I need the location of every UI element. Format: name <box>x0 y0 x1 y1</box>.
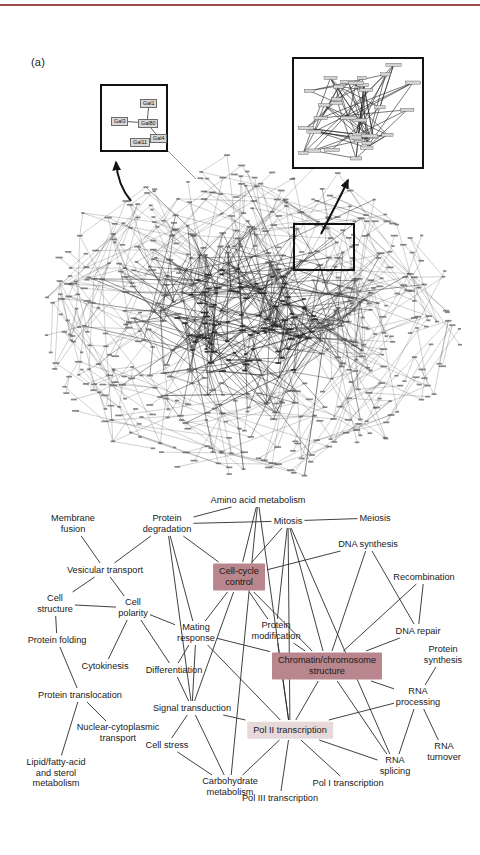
edge-mitosis--cell_cycle_control <box>252 528 282 562</box>
category-node-vesicular_transport: Vesicular transport <box>67 565 143 576</box>
category-node-cell_structure: Cell structure <box>37 593 73 614</box>
edge-membrane_fusion--vesicular_transport <box>81 536 100 563</box>
edge-vesicular_transport--cell_structure <box>73 577 95 592</box>
edge-differentiation--signal_transduction <box>177 677 188 701</box>
category-node-protein_translocation: Protein translocation <box>38 690 122 701</box>
edge-rna_processing--rna_turnover <box>424 709 439 740</box>
category-node-pol3_transcription: Pol III transcription <box>242 793 318 804</box>
edge-cell_stress--carbohydrate <box>178 752 213 775</box>
edge-protein_translocation--lipid_sterol <box>61 702 77 756</box>
category-node-recombination: Recombination <box>393 572 454 583</box>
edge-protein_degradation--signal_transduction <box>169 536 191 701</box>
edge-recombination--chromatin_structure <box>343 584 416 651</box>
panel-a: (a) Gal1Gal3Gal80Gal4Gal11 <box>0 20 480 480</box>
category-node-rna_turnover: RNA turnover <box>427 741 461 762</box>
category-node-pol1_transcription: Pol I transcription <box>313 778 384 789</box>
category-node-protein_folding: Protein folding <box>28 635 87 646</box>
edge-mitosis--protein_modification <box>277 528 287 619</box>
edge-rna_processing--rna_splicing <box>399 709 414 754</box>
edge-mitosis--rna_splicing <box>291 528 390 754</box>
header-rule <box>0 4 480 6</box>
edge-signal_transduction--pol2_transcription <box>223 715 245 720</box>
edge-cell_polarity--differentiation <box>141 620 170 663</box>
category-node-amino_acid: Amino acid metabolism <box>211 495 306 506</box>
edge-protein_degradation--mating_response <box>170 536 193 621</box>
galactose-regulon-inset: Gal1Gal3Gal80Gal4Gal11 <box>100 84 168 152</box>
category-node-cell_stress: Cell stress <box>146 740 189 751</box>
category-node-rna_splicing: RNA splicing <box>380 755 411 776</box>
edge-protein_degradation--cell_cycle_control <box>183 536 218 562</box>
edge-cell_structure--protein_folding <box>56 616 57 633</box>
edge-cell_cycle_control--protein_modification <box>249 592 267 619</box>
category-node-membrane_fusion: Membrane fusion <box>51 513 95 534</box>
category-node-meiosis: Meiosis <box>359 513 390 524</box>
edge-protein_degradation--mitosis <box>194 521 272 523</box>
category-node-mating_response: Mating response <box>177 622 215 643</box>
panel-b: (b) Membrane fusionProtein degradationAm… <box>0 480 480 855</box>
category-node-lipid_sterol: Lipid/fatty-acid and sterol metabolism <box>26 757 85 789</box>
category-node-pol2_transcription: Pol II transcription <box>247 722 333 739</box>
edge-protein_degradation--amino_acid <box>194 507 232 517</box>
edge-cell_structure--cell_polarity <box>75 605 116 607</box>
edge-protein_synthesis--rna_processing <box>425 667 436 685</box>
category-node-cell_cycle_control: Cell-cycle control <box>213 563 265 590</box>
edge-protein_folding--protein_translocation <box>60 647 77 688</box>
edge-signal_transduction--cell_stress <box>172 715 188 738</box>
category-node-protein_synthesis: Protein synthesis <box>424 644 462 665</box>
category-node-rna_processing: RNA processing <box>396 686 440 707</box>
edge-dna_synthesis--cell_cycle_control <box>267 551 341 570</box>
edge-signal_transduction--carbohydrate <box>195 715 224 775</box>
category-node-cytokinesis: Cytokinesis <box>82 661 129 672</box>
category-node-dna_repair: DNA repair <box>396 626 441 637</box>
edge-dna_synthesis--chromatin_structure <box>332 551 366 651</box>
edge-pol2_transcription--carbohydrate <box>243 740 280 775</box>
gal-node-gal80: Gal80 <box>138 119 158 128</box>
edge-pol2_transcription--pol3_transcription <box>281 740 289 791</box>
edge-pol2_transcription--rna_splicing <box>319 740 377 760</box>
edge-rna_processing--pol2_transcription <box>329 703 394 720</box>
category-node-mitosis: Mitosis <box>274 516 303 527</box>
category-node-chromatin_structure: Chromatin/chromosome structure <box>272 652 382 679</box>
category-node-cell_polarity: Cell polarity <box>118 597 148 618</box>
category-node-protein_modification: Protein modification <box>251 620 300 641</box>
category-node-differentiation: Differentiation <box>146 665 203 676</box>
edge-chromatin_structure--pol2_transcription <box>296 681 319 720</box>
functional-category-edges <box>0 480 480 855</box>
edge-chromatin_structure--rna_processing <box>371 681 394 689</box>
network-region-magnified-inset <box>292 57 424 169</box>
edge-chromatin_structure--rna_splicing <box>337 681 387 754</box>
edge-cell_polarity--mating_response <box>150 615 175 625</box>
region-of-interest-box <box>293 223 355 271</box>
edge-protein_modification--chromatin_structure <box>294 643 306 651</box>
category-node-dna_synthesis: DNA synthesis <box>338 539 398 550</box>
gal-node-gal3: Gal3 <box>111 117 128 126</box>
edge-protein_translocation--nuclear_cyto <box>87 702 106 721</box>
inset-network-graphic <box>294 59 421 166</box>
edge-cell_cycle_control--signal_transduction <box>195 592 234 701</box>
edge-cell_cycle_control--mating_response <box>205 592 227 621</box>
gal-node-gal4: Gal4 <box>150 134 167 143</box>
figure-root: (a) Gal1Gal3Gal80Gal4Gal11 <box>0 0 480 855</box>
edge-vesicular_transport--cell_polarity <box>110 577 124 596</box>
edge-recombination--dna_repair <box>419 584 423 624</box>
category-node-protein_degradation: Protein degradation <box>143 513 192 534</box>
gal-node-gal1: Gal1 <box>140 99 157 108</box>
edge-protein_degradation--vesicular_transport <box>114 536 150 563</box>
edge-mitosis--meiosis <box>305 519 358 521</box>
edge-dna_synthesis--dna_repair <box>372 551 414 624</box>
gal-node-gal11: Gal11 <box>130 138 150 147</box>
edge-cell_polarity--cytokinesis <box>108 620 127 659</box>
edge-dna_repair--chromatin_structure <box>366 638 400 651</box>
category-node-signal_transduction: Signal transduction <box>153 703 231 714</box>
